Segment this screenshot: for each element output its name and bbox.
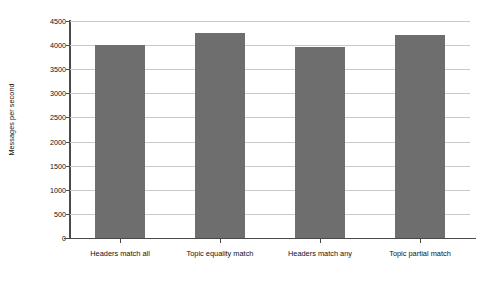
bar	[295, 47, 345, 238]
bar	[195, 33, 245, 238]
x-axis-tick-label: Topic partial match	[389, 249, 451, 258]
x-axis-tick-mark	[420, 238, 421, 243]
bar	[95, 45, 145, 238]
bar	[395, 35, 445, 238]
x-axis-tick-label: Headers match any	[288, 249, 352, 258]
x-axis-spine	[64, 238, 476, 239]
x-axis-tick-mark	[320, 238, 321, 243]
gridline	[70, 21, 470, 22]
x-axis-tick-label: Headers match all	[90, 249, 150, 258]
bar-chart: Messages per second 05001000150020002500…	[0, 0, 486, 282]
x-axis-tick-mark	[120, 238, 121, 243]
x-axis-tick-label: Topic equality match	[187, 249, 254, 258]
y-axis-title-text: Messages per second	[7, 83, 16, 155]
x-axis-tick-mark	[220, 238, 221, 243]
y-axis-title: Messages per second	[0, 0, 22, 238]
y-axis-tick-marks	[22, 21, 70, 238]
plot-area	[70, 21, 470, 238]
